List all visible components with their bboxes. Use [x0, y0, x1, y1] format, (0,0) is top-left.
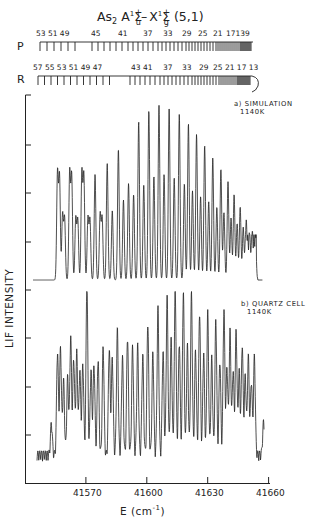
panel-b-label: b) QUARTZ CELL [241, 300, 305, 308]
p-branch-numbers-5: 33 [163, 29, 173, 38]
panel-b-temperature: 1140K [247, 308, 272, 316]
p-branch-numbers-1: 53 51 49 [36, 29, 70, 38]
spectrum-figure: As2A1Σ+u–X1Σ+g(5,1) P 53 51 49 45 41 37 … [0, 0, 322, 523]
r-branch-numbers-2: 43 41 [131, 63, 153, 72]
p-branch-ladder [40, 42, 253, 51]
x-tick-label-41570: 41570 [73, 488, 102, 498]
x-tick-label-41600: 41600 [134, 488, 163, 498]
panel-a-temperature: 1140K [240, 108, 265, 116]
p-branch-label: P [17, 40, 24, 53]
p-branch-numbers-7: 25 [198, 29, 208, 38]
x-axis [25, 477, 270, 484]
panel-a-label: a) SIMULATION [234, 100, 293, 108]
r-branch-ladder [38, 76, 258, 92]
x-tick-label-41660: 41660 [256, 488, 285, 498]
r-branch-numbers-3: 37 [163, 63, 173, 72]
y-axis-title: LIF INTENSITY [3, 269, 15, 348]
p-branch-numbers-2: 45 [91, 29, 101, 38]
simulation-spectrum [33, 105, 262, 280]
p-branch-numbers-8: 21 [213, 29, 223, 38]
x-axis-title: E (cm-1) [120, 504, 165, 517]
p-branch-numbers-9: 17139 [226, 29, 250, 38]
p-branch-numbers-4: 37 [143, 29, 153, 38]
quartz-cell-spectrum [37, 292, 264, 462]
p-branch-numbers-6: 29 [182, 29, 192, 38]
y-axis [26, 95, 32, 483]
r-branch-numbers-1: 57 55 53 51 49 47 [33, 63, 102, 72]
r-branch-numbers-6: 25 21 17 13 [213, 63, 259, 72]
r-branch-numbers-5: 29 [199, 63, 209, 72]
r-branch-label: R [17, 73, 25, 86]
r-branch-numbers-4: 33 [182, 63, 192, 72]
p-branch-numbers-3: 41 [118, 29, 128, 38]
figure-title: As2A1Σ+u–X1Σ+g(5,1) [97, 8, 204, 27]
x-tick-label-41630: 41630 [195, 488, 224, 498]
